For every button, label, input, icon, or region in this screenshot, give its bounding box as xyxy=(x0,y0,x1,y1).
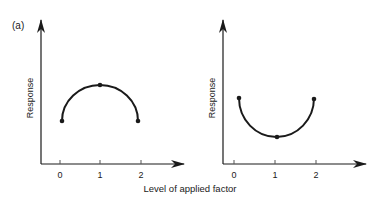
y-axis-label: Response xyxy=(25,78,35,119)
data-point xyxy=(60,119,65,124)
data-point xyxy=(312,97,317,102)
data-point xyxy=(136,119,141,124)
tick-label-2: 2 xyxy=(138,170,143,180)
tick-label-2: 2 xyxy=(313,170,318,180)
response-curve xyxy=(62,85,138,121)
data-point xyxy=(98,83,103,88)
tick-label-0: 0 xyxy=(57,170,62,180)
right-chart: 0 1 2 Response xyxy=(207,20,366,180)
y-axis-label: Response xyxy=(207,78,217,119)
tick-label-0: 0 xyxy=(231,170,236,180)
response-curve xyxy=(239,98,314,137)
data-point xyxy=(275,135,280,140)
figure: (a) 0 1 2 Response 0 1 2 Response Level … xyxy=(0,0,378,207)
x-axis-label: Level of applied factor xyxy=(144,183,237,194)
panel-label: (a) xyxy=(12,20,24,31)
tick-label-1: 1 xyxy=(272,170,277,180)
tick-label-1: 1 xyxy=(97,170,102,180)
data-point xyxy=(237,96,242,101)
left-chart: 0 1 2 Response xyxy=(25,20,184,180)
